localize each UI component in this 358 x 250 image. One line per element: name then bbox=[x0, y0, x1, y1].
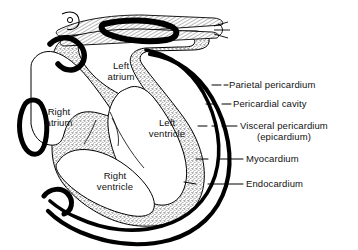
callout-visceral-pericardium-subtext: (epicardium) bbox=[240, 131, 328, 142]
callout-myocardium-text: Myocardium bbox=[246, 153, 299, 164]
callout-visceral-pericardium-text: Visceral pericardium bbox=[240, 120, 328, 131]
callout-pericardial-cavity-text: Pericardial cavity bbox=[233, 98, 307, 109]
left-atrium-line2: atrium bbox=[108, 71, 135, 82]
chamber-label-right-atrium: Right atrium bbox=[36, 106, 82, 128]
chamber-label-left-atrium: Left atrium bbox=[100, 60, 142, 82]
right-ventricle-line1: Right bbox=[104, 170, 127, 181]
right-ventricle-line2: ventricle bbox=[97, 181, 133, 192]
heart-body-group bbox=[20, 12, 244, 244]
heart-cross-section-figure: Left atrium Right atrium Left ventricle … bbox=[0, 0, 358, 250]
callout-visceral-pericardium: Visceral pericardium (epicardium) bbox=[240, 120, 328, 142]
chamber-label-right-ventricle: Right ventricle bbox=[88, 170, 142, 192]
chamber-label-left-ventricle: Left ventricle bbox=[141, 117, 193, 139]
callout-endocardium: Endocardium bbox=[246, 178, 303, 189]
right-atrium-line2: atrium bbox=[46, 117, 73, 128]
callout-parietal-pericardium: Parietal pericardium bbox=[229, 79, 315, 90]
callout-endocardium-text: Endocardium bbox=[246, 178, 303, 189]
left-ventricle-line1: Left bbox=[159, 117, 175, 128]
callout-pericardial-cavity: Pericardial cavity bbox=[233, 98, 307, 109]
right-atrium-line1: Right bbox=[48, 106, 71, 117]
left-ventricle-line2: ventricle bbox=[149, 128, 185, 139]
callout-myocardium: Myocardium bbox=[246, 153, 299, 164]
left-atrium-line1: Left bbox=[113, 60, 129, 71]
callout-parietal-pericardium-text: Parietal pericardium bbox=[229, 79, 315, 90]
